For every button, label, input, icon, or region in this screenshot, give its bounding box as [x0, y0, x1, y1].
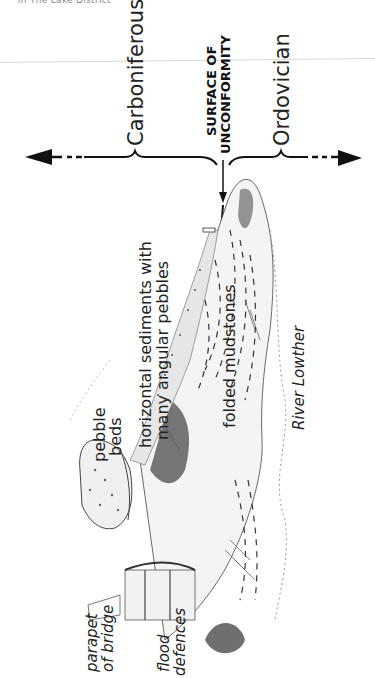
ordovician-label: Ordovician [270, 33, 294, 146]
parapet-label-line1: parapet [84, 613, 100, 672]
unconformity-label-line2: UNCONFORMITY [219, 35, 232, 154]
carboniferous-brace [84, 151, 217, 165]
river-lowther-label: River Lowther [291, 326, 307, 430]
carboniferous-label: Carboniferous [124, 0, 148, 146]
pipe [203, 228, 215, 232]
right-arrow-icon [312, 150, 362, 166]
folded-mudstones-label: folded mudstones [222, 284, 238, 428]
horizontal-sediments-label-line2: many angular pebbles [155, 261, 171, 440]
unconformity-label-line1: SURFACE OF [205, 46, 218, 136]
pebble-beds-label-line2: beds [108, 418, 124, 457]
parapet-label-line2: of bridge [100, 605, 116, 672]
horizontal-sediments-label-line1: horizontal sediments with [138, 241, 154, 448]
geology-sketch [0, 0, 375, 678]
left-arrow-icon [25, 149, 82, 165]
ordovician-brace [229, 151, 308, 165]
flood-defences-label-line2: defences [172, 608, 188, 676]
down-arrow-icon [219, 160, 227, 203]
flood-defences-label-line1: flood [156, 634, 172, 672]
